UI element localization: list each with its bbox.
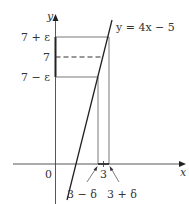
y-axis-label: y [46, 10, 54, 23]
line-equation-label: y = 4x − 5 [115, 21, 175, 34]
x-axis-label: x [180, 166, 187, 179]
origin-label: 0 [45, 168, 52, 181]
x-tick-center-label: 3 [100, 168, 107, 181]
y-axis [53, 14, 59, 204]
right-pointer-arrow-icon [110, 166, 114, 171]
epsilon-delta-diagram: y x 0 y = 4x − 5 7 + ε 7 7 − ε 3 3 − δ 3… [0, 0, 189, 204]
x-tick-left-label: 3 − δ [67, 188, 97, 201]
y-tick-lower-label: 7 − ε [21, 71, 50, 84]
y-tick-center-label: 7 [43, 51, 50, 64]
x-tick-right-label: 3 + δ [107, 188, 137, 201]
y-tick-upper-label: 7 + ε [21, 31, 50, 44]
y-axis-arrow-icon [53, 14, 59, 21]
